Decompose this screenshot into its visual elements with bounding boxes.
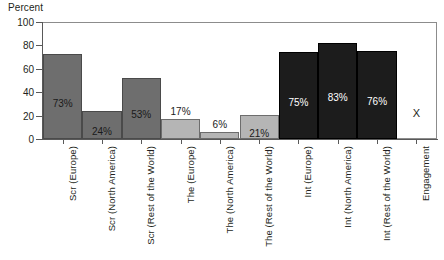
x-axis-category-label: The (Rest of the World) <box>263 146 274 247</box>
x-axis-tick <box>220 139 221 144</box>
bar-int-7 <box>318 43 357 139</box>
x-axis-category-label: Int (Rest of the World) <box>381 146 392 241</box>
bar-value-label: 17% <box>171 106 191 117</box>
bar-the-3 <box>161 119 200 139</box>
x-axis-tick <box>338 139 339 144</box>
x-axis-category-label: The (North America) <box>224 146 235 233</box>
y-axis-tick-label: 40 <box>4 87 34 98</box>
bar-value-label: 75% <box>288 97 308 108</box>
bar-value-label: 6% <box>213 119 227 130</box>
x-axis-tick <box>377 139 378 144</box>
bar-scr-0 <box>43 54 82 139</box>
bar-the-4 <box>200 132 239 139</box>
bar-value-label: 73% <box>53 98 73 109</box>
y-axis-tick <box>36 139 42 140</box>
bar-value-label: 21% <box>249 128 269 139</box>
bar-value-label: 24% <box>92 126 112 137</box>
x-axis-category-label: Engagement <box>420 146 431 201</box>
x-axis-tick <box>181 139 182 144</box>
y-axis-tick-label: 100 <box>4 17 34 28</box>
y-axis-tick <box>36 92 42 93</box>
y-axis-tick <box>36 116 42 117</box>
bar-value-label: 76% <box>367 96 387 107</box>
x-axis-category-label: The (Europe) <box>185 146 196 203</box>
y-axis-title: Percent <box>8 2 43 13</box>
bar-scr-2 <box>122 78 161 139</box>
x-axis-tick <box>259 139 260 144</box>
x-axis-category-label: Int (Europe) <box>302 146 313 197</box>
y-axis-tick-label: 80 <box>4 40 34 51</box>
bar-chart: Percent 020406080100 73%24%53%17%6%21%75… <box>0 0 444 260</box>
bar-value-label: 53% <box>131 109 151 120</box>
y-axis-tick-label: 20 <box>4 110 34 121</box>
x-axis-category-label: Scr (North America) <box>106 146 117 231</box>
missing-data-marker: X <box>413 107 420 119</box>
bar-int-6 <box>279 52 318 139</box>
x-axis-tick <box>102 139 103 144</box>
x-axis-tick <box>63 139 64 144</box>
x-axis-tick <box>141 139 142 144</box>
y-axis-tick <box>36 69 42 70</box>
bar-int-8 <box>357 51 396 139</box>
bars-layer: 73%24%53%17%6%21%75%83%76% <box>43 23 436 139</box>
y-axis-tick <box>36 22 42 23</box>
x-axis-category-label: Int (North America) <box>342 146 353 228</box>
bar-value-label: 83% <box>328 92 348 103</box>
x-axis-category-label: Scr (Europe) <box>67 146 78 201</box>
y-axis-tick <box>36 45 42 46</box>
x-axis-labels: Scr (Europe)Scr (North America)Scr (Rest… <box>0 146 444 258</box>
y-axis-tick-label: 60 <box>4 63 34 74</box>
x-axis-tick <box>416 139 417 144</box>
y-axis-tick-label: 0 <box>4 134 34 145</box>
x-axis-category-label: Scr (Rest of the World) <box>145 146 156 245</box>
x-axis-tick <box>298 139 299 144</box>
